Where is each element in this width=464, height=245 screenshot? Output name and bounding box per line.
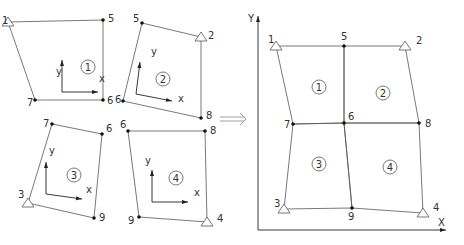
local-x-label: x — [99, 73, 105, 84]
node-label: 6 — [106, 123, 112, 134]
local-x-axis — [152, 200, 188, 204]
node-dot — [342, 44, 346, 48]
local-y-label: y — [151, 46, 157, 57]
mesh-element-number: 3 — [316, 159, 322, 170]
local-x-label: x — [178, 93, 184, 104]
node-label: 7 — [43, 118, 49, 129]
local-x-label: x — [194, 187, 200, 198]
mesh-element-number: 1 — [316, 82, 322, 93]
mesh-node-label: 1 — [268, 34, 274, 45]
support-triangle-icon — [399, 41, 411, 50]
node-dot — [101, 18, 105, 22]
mesh-element-number: 4 — [387, 162, 393, 173]
mesh-node-label: 2 — [416, 35, 422, 46]
node-label: 6 — [115, 94, 121, 105]
arrow-head-icon — [137, 62, 141, 68]
local-y-axis — [150, 170, 154, 202]
node-label: 8 — [206, 110, 212, 121]
node-label: 9 — [99, 212, 105, 223]
arrow-head-icon — [76, 196, 82, 200]
local-x-label: x — [86, 184, 92, 195]
mesh-node-label: 7 — [284, 119, 290, 130]
mesh-element-number: 2 — [380, 88, 386, 99]
local-y-axis — [136, 62, 141, 94]
local-x-axis — [62, 90, 98, 94]
node-dot — [126, 129, 130, 133]
node-label: 4 — [217, 213, 223, 224]
element-number: 4 — [173, 173, 179, 184]
element-number: 1 — [85, 62, 91, 73]
element-4: 68494yx — [120, 119, 223, 226]
node-dot — [121, 99, 125, 103]
fe-mesh-diagram: 17651yx56822yx76933yx68494yxXY1234152768… — [0, 0, 464, 245]
node-dot — [350, 206, 354, 210]
local-y-label: y — [49, 145, 55, 156]
global-x-axis — [258, 228, 446, 232]
local-x-axis — [46, 194, 82, 200]
mesh-element-2 — [344, 46, 419, 123]
node-dot — [137, 215, 141, 219]
local-x-axis — [136, 94, 172, 102]
node-label: 7 — [27, 97, 33, 108]
element-1: 17651yx — [2, 13, 114, 108]
node-dot — [50, 122, 54, 126]
node-label: 5 — [108, 13, 114, 24]
local-y-label: y — [145, 155, 151, 166]
mesh-node-label: 5 — [341, 31, 347, 42]
node-label: 6 — [107, 95, 113, 106]
mesh-node-label: 4 — [433, 202, 439, 213]
arrow-head-icon — [44, 162, 48, 168]
node-dot — [417, 121, 421, 125]
mesh-node-label: 3 — [274, 198, 280, 209]
node-label: 3 — [18, 189, 24, 200]
node-dot — [203, 129, 207, 133]
mesh-element-4 — [344, 123, 423, 213]
arrow-head — [240, 113, 246, 125]
local-y-axis — [44, 162, 48, 194]
local-y-label: y — [56, 66, 62, 77]
support-triangle-icon — [195, 32, 207, 41]
element-number: 2 — [160, 74, 166, 85]
arrow-head-icon — [92, 90, 98, 94]
implies-arrow-icon — [220, 113, 246, 125]
element-outline — [28, 124, 102, 218]
node-dot — [291, 122, 295, 126]
node-label: 6 — [120, 119, 126, 130]
mesh-node-label: 6 — [348, 111, 354, 122]
arrow-head-icon — [150, 170, 154, 176]
global-y-axis — [256, 16, 260, 230]
mesh-element-1 — [276, 46, 344, 124]
element-outline — [123, 23, 201, 118]
arrow-head-icon — [256, 16, 260, 22]
node-label: 5 — [133, 13, 139, 24]
element-number: 3 — [71, 170, 77, 181]
node-dot — [33, 98, 37, 102]
arrow-head-icon — [440, 228, 446, 232]
global-x-label: X — [438, 217, 445, 228]
node-dot — [342, 121, 346, 125]
mesh-node-label: 9 — [348, 211, 354, 222]
node-label: 2 — [208, 30, 214, 41]
element-2: 56822yx — [115, 13, 214, 121]
global-y-label: Y — [247, 13, 255, 24]
node-dot — [140, 21, 144, 25]
node-dot — [92, 216, 96, 220]
diagram-canvas: { "colors": {"line": "#555555", "node": … — [0, 0, 464, 245]
assembled-mesh: XY1234152768394 — [247, 13, 446, 232]
node-dot — [199, 116, 203, 120]
element-outline — [128, 131, 207, 222]
node-label: 1 — [2, 15, 8, 26]
arrow-head-icon — [182, 200, 188, 204]
node-dot — [100, 132, 104, 136]
node-dot — [101, 98, 105, 102]
node-label: 8 — [210, 125, 216, 136]
node-label: 9 — [128, 215, 134, 226]
mesh-node-label: 8 — [425, 118, 431, 129]
element-3: 76933yx — [18, 118, 112, 223]
